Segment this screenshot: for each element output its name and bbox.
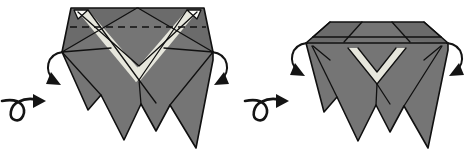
diagram-canvas: [0, 0, 475, 155]
origami-diagram: [0, 0, 475, 155]
